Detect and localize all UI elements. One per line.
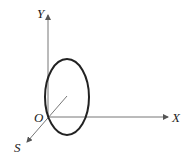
origin-label: O bbox=[34, 110, 44, 125]
y-axis-label: Y bbox=[37, 6, 46, 21]
s-axis bbox=[27, 96, 67, 142]
axis-diagram: Y X S O bbox=[0, 0, 188, 161]
s-axis-label: S bbox=[14, 140, 21, 155]
ellipse bbox=[45, 59, 89, 135]
x-axis-label: X bbox=[171, 110, 181, 125]
